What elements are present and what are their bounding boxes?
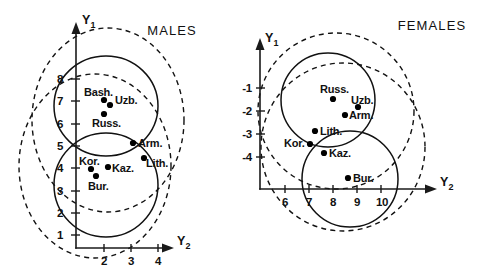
datapoint-kaz[interactable]	[105, 164, 111, 170]
females-x-axis-subscript: 2	[449, 182, 454, 192]
males-x-axis-subscript: 2	[186, 241, 191, 251]
males-x-tick-label: 3	[128, 255, 134, 267]
males-y-tick-label: 1	[57, 229, 64, 241]
datapoint-arm[interactable]	[342, 112, 348, 118]
females-y-tick-label: -3	[242, 128, 252, 140]
datapoint-label-lith: Lith.	[146, 157, 168, 169]
females-y-tick-label: -2	[242, 105, 252, 117]
datapoint-label-arm: Arm.	[138, 137, 162, 149]
females-y-axis: Y 1	[256, 31, 279, 189]
males-y-tick-label: 4	[57, 162, 64, 174]
datapoint-arm[interactable]	[130, 140, 136, 146]
datapoint-label-arm: Arm.	[349, 109, 373, 121]
females-x-tick-label: 8	[330, 196, 337, 208]
panel-title-females: FEMALES	[398, 18, 466, 33]
datapoint-label-bash: Bash.	[84, 86, 113, 98]
datapoint-label-uzb: Uzb.	[115, 94, 138, 106]
males-x-tick-label: 4	[155, 255, 162, 267]
datapoint-label-kor: Kor.	[79, 155, 100, 167]
datapoint-label-kaz: Kaz.	[329, 147, 351, 159]
panel-title-males: MALES	[147, 23, 197, 38]
females-x-tick-label: 6	[282, 196, 288, 208]
datapoint-label-bur: Bur.	[88, 180, 109, 192]
panel-females: Y 1 Y 2 -1 -2 -3 -4 6 7	[240, 0, 481, 277]
males-y-tick-label: 7	[57, 95, 63, 107]
panel-males: Y 1 Y 2 8 7 6 5 4 3 2 1	[0, 0, 250, 277]
datapoint-label-uzb: Uzb.	[351, 94, 374, 106]
males-y-axis-subscript: 1	[91, 20, 96, 30]
females-dashed-ellipse-upper	[258, 33, 414, 189]
males-data-points: Bash. Uzb. Russ. Arm. Lith. Kor. Kaz. Bu…	[79, 86, 168, 192]
females-x-tick-label: 9	[354, 196, 360, 208]
datapoint-kaz[interactable]	[321, 150, 327, 156]
females-x-tick-label: 7	[306, 196, 312, 208]
datapoint-bur[interactable]	[93, 173, 99, 179]
datapoint-kor[interactable]	[307, 141, 313, 147]
females-x-tick-label: 10	[376, 196, 388, 208]
datapoint-label-lith: Lith.	[320, 125, 342, 137]
females-y-tick-label: -4	[242, 151, 253, 163]
datapoint-label-russ: Russ.	[320, 83, 349, 95]
females-y-axis-subscript: 1	[274, 38, 279, 48]
males-x-axis: Y 2	[76, 234, 191, 253]
males-y-tick-label: 8	[57, 73, 64, 85]
datapoint-label-russ: Russ.	[92, 117, 121, 129]
datapoint-label-kaz: Kaz.	[112, 162, 134, 174]
males-x-tick-label: 2	[101, 255, 107, 267]
datapoint-label-kor: Kor.	[284, 137, 305, 149]
females-y-tick-label: -1	[242, 82, 253, 94]
males-y-tick-label: 2	[57, 207, 63, 219]
males-y-tick-label: 5	[57, 140, 64, 152]
males-y-tick-label: 3	[57, 185, 63, 197]
datapoint-label-bur: Bur.	[353, 172, 374, 184]
datapoint-russ[interactable]	[330, 96, 336, 102]
females-y-ticks: -1 -2 -3 -4	[242, 82, 265, 163]
datapoint-bur[interactable]	[345, 175, 351, 181]
figure-root: Y 1 Y 2 8 7 6 5 4 3 2 1	[0, 0, 481, 277]
datapoint-lith[interactable]	[312, 128, 318, 134]
males-y-tick-label: 6	[57, 118, 63, 130]
datapoint-uzb[interactable]	[107, 102, 113, 108]
